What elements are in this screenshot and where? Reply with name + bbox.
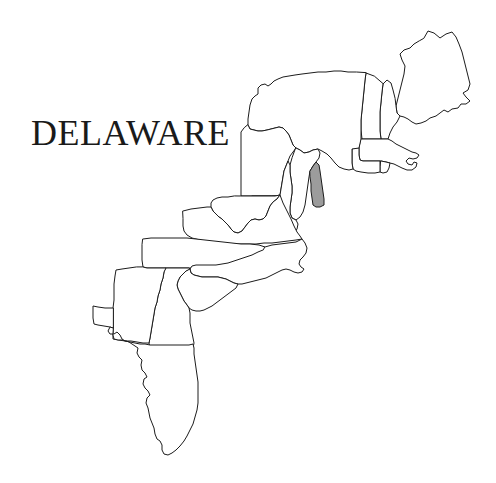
- state-florida: [108, 327, 198, 455]
- state-maine: [396, 31, 470, 124]
- eastern-us-map: [0, 0, 496, 483]
- state-delaware: [310, 162, 324, 207]
- state-new-hampshire: [380, 80, 400, 139]
- state-rhode-island: [380, 161, 390, 173]
- map-figure: DELAWARE: [0, 0, 496, 483]
- state-western-panhandle: [93, 306, 113, 328]
